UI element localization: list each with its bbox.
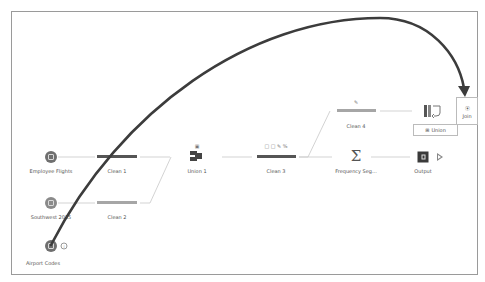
- drag-path-arrow: [0, 0, 485, 282]
